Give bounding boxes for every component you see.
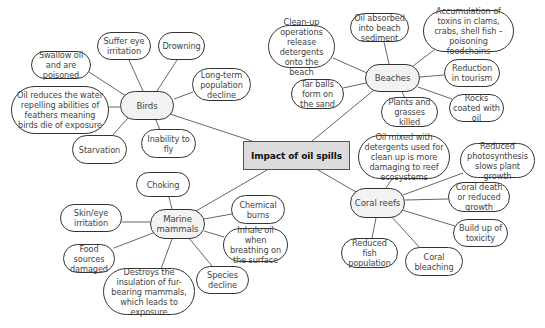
node-label: Reduction in tourism (448, 63, 496, 83)
connector-beaches-be4 (420, 75, 444, 77)
node-label: Drowning (162, 41, 200, 51)
connector-marine-m5 (114, 233, 153, 248)
node-label: Food sources damaged (67, 244, 111, 274)
connector-marine-m4 (204, 231, 224, 237)
node-label: Reduced photosynthesis slows plant growt… (464, 141, 531, 181)
hub-node-beaches: Beaches (365, 64, 420, 92)
hub-node-coral: Coral reefs (350, 188, 405, 218)
node-label: Plants and grasses killed (385, 97, 434, 127)
leaf-node-m6: Destroys the insulation of fur-bearing m… (103, 268, 195, 315)
leaf-node-m1: Choking (136, 172, 190, 197)
connector-birds-b2 (129, 60, 143, 91)
node-label: Build up of toxicity (457, 223, 504, 243)
node-label: Oil reduces the water repelling abilitie… (15, 90, 105, 130)
leaf-node-m4: Inhale oil when breathing on the surface (223, 228, 288, 262)
node-label: Coral death or reduced growth (452, 182, 506, 212)
leaf-node-c5: Reduced fish population (341, 238, 398, 268)
leaf-node-m7: Species decline (196, 266, 249, 294)
connector-marine-m6 (161, 239, 172, 269)
node-label: Species decline (200, 270, 245, 290)
leaf-node-be1: Clean-up operations release detergents o… (268, 25, 335, 68)
node-label: Reduced fish population (345, 238, 394, 268)
connector-coral-c3 (405, 199, 448, 200)
node-label: Inhale oil when breathing on the surface (227, 225, 284, 265)
leaf-node-be7: Rocks coated with oil (449, 94, 504, 122)
leaf-node-c6: Coral bleaching (405, 247, 463, 276)
node-label: Starvation (79, 145, 120, 155)
connector-coral-c4 (402, 210, 455, 226)
leaf-node-be5: Tar balls form on the sand (291, 79, 344, 109)
leaf-node-c2: Reduced photosynthesis slows plant growt… (460, 143, 535, 178)
node-label: Impact of oil spills (251, 151, 342, 161)
node-label: Long-term population decline (196, 70, 247, 100)
leaf-node-b7: Inability to fly (141, 129, 196, 158)
center-node-center: Impact of oil spills (243, 141, 350, 170)
hub-node-birds: Birds (120, 91, 174, 120)
connector-center-coral (318, 170, 356, 192)
connector-birds-b4 (174, 92, 193, 99)
node-label: Marine mammals (154, 214, 201, 234)
connector-beaches-be5 (343, 83, 366, 88)
node-label: Tar balls form on the sand (295, 79, 340, 109)
connector-birds-b6 (112, 118, 128, 136)
connector-beaches-be1 (333, 58, 367, 73)
connector-marine-m3 (204, 214, 232, 219)
connector-marine-m7 (188, 237, 212, 266)
node-label: Oil absorbed into beach sediment (354, 13, 405, 43)
node-label: Suffer eye irritation (101, 36, 147, 56)
node-label: Oil mixed with detergents used for clean… (362, 132, 446, 182)
node-label: Swallow oil and are poisoned (35, 50, 87, 80)
leaf-node-c3: Coral death or reduced growth (448, 182, 510, 212)
connector-marine-m1 (169, 197, 172, 209)
leaf-node-b3: Drowning (158, 32, 205, 60)
leaf-node-b4: Long-term population decline (192, 68, 251, 101)
node-label: Choking (147, 180, 180, 190)
node-label: Accumulation of toxins in clams, crabs, … (427, 6, 510, 56)
node-label: Skin/eye irritation (64, 208, 118, 228)
node-label: Inability to fly (145, 134, 192, 154)
connector-birds-b3 (157, 60, 177, 91)
node-label: Destroys the insulation of fur-bearing m… (107, 267, 191, 317)
leaf-node-b2: Suffer eye irritation (97, 32, 151, 60)
connector-coral-c5 (372, 218, 376, 238)
node-label: Birds (136, 101, 157, 111)
leaf-node-c1: Oil mixed with detergents used for clean… (358, 135, 450, 179)
leaf-node-be3: Accumulation of toxins in clams, crabs, … (423, 10, 514, 52)
node-label: Rocks coated with oil (453, 93, 500, 123)
leaf-node-c4: Build up of toxicity (453, 219, 508, 247)
leaf-node-b5: Oil reduces the water repelling abilitie… (11, 86, 109, 134)
node-label: Coral bleaching (409, 252, 459, 272)
leaf-node-b1: Swallow oil and are poisoned (31, 51, 91, 79)
leaf-node-m3: Chemical burns (231, 195, 285, 224)
leaf-node-m2: Skin/eye irritation (60, 204, 122, 232)
connector-coral-c6 (391, 216, 420, 248)
node-label: Coral reefs (355, 198, 401, 208)
leaf-node-be4: Reduction in tourism (444, 59, 500, 87)
connector-beaches-be2 (384, 42, 389, 64)
node-label: Beaches (375, 73, 411, 83)
leaf-node-be2: Oil absorbed into beach sediment (350, 13, 409, 42)
node-label: Chemical burns (235, 200, 281, 220)
leaf-node-b6: Starvation (72, 135, 127, 164)
mind-map: Impact of oil spillsBirdsBeachesMarine m… (0, 0, 545, 328)
leaf-node-be6: Plants and grasses killed (381, 97, 438, 127)
node-label: Clean-up operations release detergents o… (272, 17, 331, 77)
hub-node-marine: Marine mammals (150, 209, 205, 239)
